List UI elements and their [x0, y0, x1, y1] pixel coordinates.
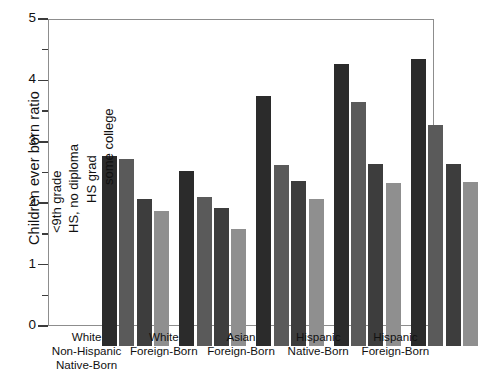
y-tick-major: [38, 80, 48, 82]
bar: [119, 159, 134, 346]
y-tick-label: 2: [18, 194, 36, 209]
bar: [256, 96, 271, 346]
y-tick-major: [38, 264, 48, 266]
y-tick-major: [38, 18, 48, 20]
x-axis-label-line: Foreign-Born: [357, 344, 434, 358]
bar: [446, 164, 461, 346]
bar-group: [406, 39, 482, 346]
bar: [154, 211, 169, 346]
bar: [179, 171, 194, 346]
x-axis-label-line: Non-Hispanic: [48, 344, 125, 358]
bar: [214, 208, 229, 346]
x-axis-label-line: Foreign-Born: [125, 344, 202, 358]
plot-inner: <9th gradeHS, no diplomaHS gradsome coll…: [49, 20, 433, 325]
x-axis-group-label: HispanicForeign-Born: [357, 330, 434, 376]
bar-groups: [97, 39, 482, 346]
bar: [386, 183, 401, 346]
bar-group: [329, 39, 406, 346]
bar: [197, 197, 212, 346]
bar: [102, 156, 117, 346]
legend-item: HS, no diploma: [66, 144, 81, 233]
y-tick-label: 0: [18, 317, 36, 332]
bar: [274, 165, 289, 346]
y-tick-label: 5: [18, 10, 36, 25]
y-tick-major: [38, 325, 48, 327]
bar: [368, 164, 383, 346]
bar: [411, 59, 426, 346]
x-axis-group-label: WhiteNon-HispanicNative-Born: [48, 330, 125, 376]
y-tick-label: 4: [18, 71, 36, 86]
bar: [309, 199, 324, 346]
y-tick-major: [38, 141, 48, 143]
plot-area: <9th gradeHS, no diplomaHS gradsome coll…: [48, 19, 434, 326]
x-axis-group-label: HispanicNative-Born: [280, 330, 357, 376]
x-axis-label-line: Native-Born: [48, 358, 125, 372]
x-axis-group-label: AsianForeign-Born: [202, 330, 279, 376]
bar: [231, 229, 246, 346]
x-axis-label-line: Hispanic: [357, 330, 434, 344]
bar: [351, 102, 366, 346]
x-axis-label-line: Asian: [202, 330, 279, 344]
bar: [428, 125, 443, 346]
x-axis-label-line: Foreign-Born: [202, 344, 279, 358]
bar: [291, 181, 306, 346]
bar-group: [174, 39, 251, 346]
x-axis-label-line: White: [48, 330, 125, 344]
y-tick-label: 3: [18, 133, 36, 148]
bar-group: [97, 39, 174, 346]
bar-group: [251, 39, 328, 346]
bar: [334, 64, 349, 346]
bar: [137, 199, 152, 346]
x-axis-label-line: Hispanic: [280, 330, 357, 344]
y-tick-major: [38, 202, 48, 204]
x-axis-label-line: White: [125, 330, 202, 344]
x-axis-labels: WhiteNon-HispanicNative-BornWhiteForeign…: [48, 330, 434, 376]
y-tick-label: 1: [18, 256, 36, 271]
x-axis-label-line: Native-Born: [280, 344, 357, 358]
bar: [463, 182, 478, 346]
x-axis-group-label: WhiteForeign-Born: [125, 330, 202, 376]
legend-item: <9th grade: [49, 170, 64, 233]
